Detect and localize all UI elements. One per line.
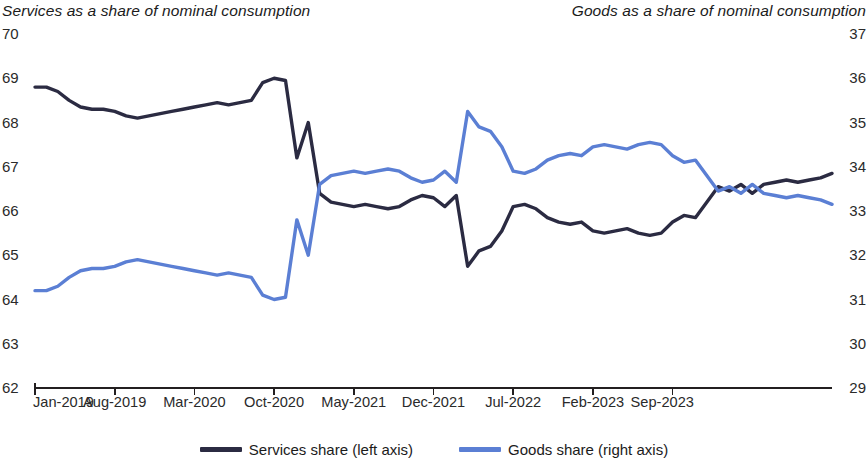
series-line-services — [35, 78, 832, 266]
legend-label: Goods share (right axis) — [508, 441, 668, 458]
legend-swatch-icon — [200, 447, 242, 452]
axis-lines — [35, 383, 832, 395]
legend-item-goods[interactable]: Goods share (right axis) — [459, 441, 668, 458]
series-line-goods — [35, 111, 832, 299]
plot-area — [0, 0, 868, 469]
series-lines — [35, 78, 832, 299]
legend-swatch-icon — [459, 447, 501, 452]
chart-legend: Services share (left axis)Goods share (r… — [0, 441, 868, 458]
legend-label: Services share (left axis) — [249, 441, 413, 458]
chart-container: Services as a share of nominal consumpti… — [0, 0, 868, 469]
legend-item-services[interactable]: Services share (left axis) — [200, 441, 413, 458]
